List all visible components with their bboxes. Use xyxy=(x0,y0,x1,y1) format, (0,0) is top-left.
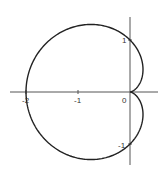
x-tick-label--2: -2 xyxy=(22,96,30,105)
x-tick-label--1: -1 xyxy=(74,96,82,105)
origin-label: 0 xyxy=(122,96,127,105)
y-tick-label--1: -1 xyxy=(118,141,126,150)
cardioid-plot: -2 -1 0 1 -1 xyxy=(0,0,166,174)
y-tick-label-1: 1 xyxy=(122,36,127,45)
